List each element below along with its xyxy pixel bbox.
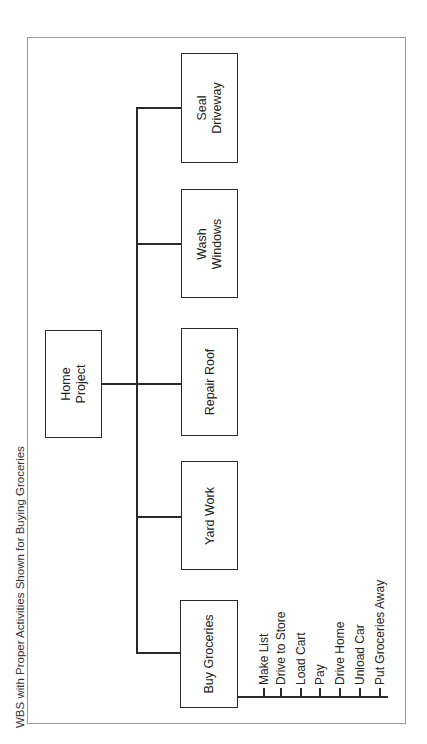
wbs-node-label: Seal Driveway — [195, 82, 225, 133]
activity-drive-to-store: Drive to Store — [274, 612, 288, 685]
activity-tick — [280, 688, 282, 697]
activity-pay: Pay — [313, 664, 327, 685]
activity-tick — [300, 688, 302, 697]
activity-tick — [339, 688, 341, 697]
activity-put-groceries-away: Put Groceries Away — [373, 580, 387, 685]
activity-drive-home: Drive Home — [333, 622, 347, 685]
activity-tick — [263, 688, 265, 697]
wbs-trunk-line — [136, 108, 138, 653]
wbs-root-label: Home Project — [59, 365, 89, 404]
wbs-node-label: Wash Windows — [195, 218, 225, 269]
activity-unload-car: Unload Car — [353, 624, 367, 685]
wbs-node-wash-windows: Wash Windows — [181, 189, 238, 298]
wbs-node-seal-driveway: Seal Driveway — [181, 53, 238, 163]
branch-connector-yard-work — [136, 516, 182, 518]
branch-connector-repair-roof — [136, 383, 182, 385]
activity-tick — [319, 688, 321, 697]
activities-baseline — [237, 696, 388, 698]
branch-connector-seal-driveway — [136, 107, 182, 109]
wbs-node-label: Buy Groceries — [202, 614, 217, 693]
branch-connector-wash-windows — [136, 243, 182, 245]
root-connector — [101, 383, 137, 385]
wbs-node-yard-work: Yard Work — [181, 461, 238, 570]
wbs-node-repair-roof: Repair Roof — [181, 328, 238, 436]
activity-load-cart: Load Cart — [294, 632, 308, 685]
wbs-node-label: Yard Work — [202, 487, 217, 545]
wbs-root-node: Home Project — [45, 330, 102, 438]
activity-make-list: Make List — [257, 634, 271, 685]
branch-connector-buy-groceries — [136, 652, 182, 654]
activity-tick — [359, 688, 361, 697]
figure-title: WBS with Proper Activities Shown for Buy… — [14, 446, 26, 728]
wbs-node-buy-groceries: Buy Groceries — [180, 600, 238, 708]
activity-tick — [379, 688, 381, 697]
wbs-node-label: Repair Roof — [202, 349, 217, 416]
